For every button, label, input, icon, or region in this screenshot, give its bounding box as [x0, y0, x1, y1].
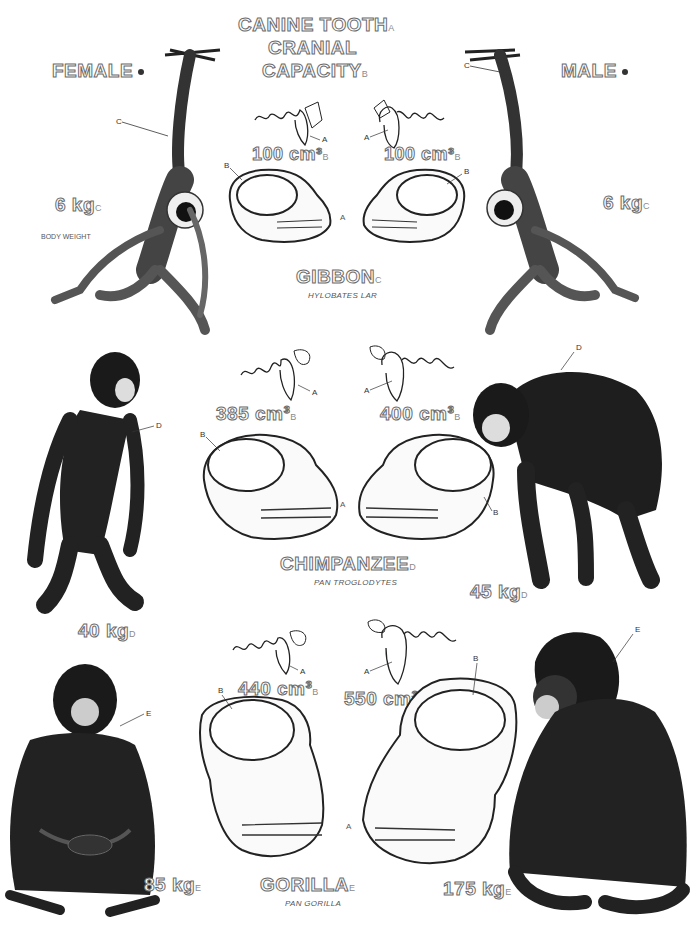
svg-text:E: E [635, 625, 640, 634]
chimp-latin-name: PAN TROGLODYTES [314, 578, 397, 587]
key-c: C [375, 275, 382, 285]
gibbon-male-canine: A [362, 100, 452, 150]
svg-text:A: A [364, 133, 370, 142]
species-name: GORILLA [260, 874, 349, 895]
gibbon-canine-pointer: A [340, 213, 345, 222]
weight-value: 40 kg [78, 620, 129, 641]
weight-value: 85 kg [144, 874, 195, 895]
gorilla-female-skull: B [192, 685, 342, 865]
chimp-female-cranial: 385 cm³B [216, 403, 297, 425]
title-line-3: CAPACITY [262, 60, 362, 81]
svg-text:E: E [146, 709, 151, 718]
key-c: C [95, 203, 102, 213]
svg-text:B: B [218, 686, 223, 695]
gibbon-latin-name: HYLOBATES LAR [308, 291, 377, 300]
key-e: E [505, 887, 512, 897]
gorilla-canine-pointer: A [346, 822, 351, 831]
key-b: B [362, 69, 369, 79]
weight-value: 45 kg [470, 581, 521, 602]
gibbon-species-name: GIBBONC [296, 266, 382, 288]
svg-text:B: B [224, 161, 229, 170]
weight-value: 6 kg [603, 192, 643, 213]
svg-text:C: C [464, 61, 470, 70]
svg-text:B: B [493, 508, 498, 517]
svg-text:A: A [322, 135, 328, 144]
chimp-canine-pointer: A [340, 500, 345, 509]
title-capacity: CAPACITYB [262, 60, 368, 82]
cranial-value: 400 cm³ [380, 403, 454, 424]
key-d: D [521, 590, 528, 600]
svg-text:B: B [473, 654, 478, 663]
species-name: CHIMPANZEE [280, 553, 409, 574]
key-b: B [290, 412, 297, 422]
key-c: C [643, 201, 650, 211]
weight-value: 175 kg [443, 878, 505, 899]
svg-text:C: C [116, 117, 122, 126]
gorilla-male-weight: 175 kgE [443, 878, 512, 900]
gibbon-male-skull: B [352, 160, 472, 250]
svg-text:D: D [576, 343, 582, 352]
gorilla-female-weight: 85 kgE [144, 874, 202, 896]
gibbon-female-canine: A [250, 100, 330, 150]
chimp-female-illustration: D [20, 340, 180, 620]
gibbon-male-illustration: C [460, 40, 650, 340]
svg-text:A: A [312, 388, 318, 397]
title-line-1: CANINE TOOTH [238, 14, 388, 35]
species-name: GIBBON [296, 266, 375, 287]
title-line-2: CRANIAL [268, 37, 357, 58]
gorilla-female-canine: A [228, 628, 318, 678]
title-cranial: CRANIAL [268, 37, 357, 59]
svg-text:B: B [200, 430, 205, 439]
chimp-female-skull: B [196, 425, 346, 545]
gorilla-latin-name: PAN GORILLA [285, 899, 341, 908]
gorilla-species-name: GORILLAE [260, 874, 356, 896]
chimp-species-name: CHIMPANZEED [280, 553, 416, 575]
key-a: A [388, 23, 395, 33]
chimp-male-canine: A [362, 345, 462, 405]
svg-text:A: A [364, 386, 370, 395]
svg-text:D: D [156, 421, 162, 430]
cranial-value: 385 cm³ [216, 403, 290, 424]
gibbon-female-skull: B [222, 160, 342, 250]
chimp-male-cranial: 400 cm³B [380, 403, 461, 425]
key-e: E [349, 883, 356, 893]
chimp-female-weight: 40 kgD [78, 620, 136, 642]
chimp-male-weight: 45 kgD [470, 581, 528, 603]
body-weight-label: BODY WEIGHT [41, 233, 91, 240]
svg-text:A: A [300, 667, 306, 676]
key-d: D [129, 629, 136, 639]
chimp-male-skull: B [348, 425, 508, 545]
chimp-female-canine: A [236, 345, 326, 405]
gibbon-female-weight: 6 kgC [55, 194, 102, 216]
weight-value: 6 kg [55, 194, 95, 215]
key-b: B [454, 412, 461, 422]
svg-text:B: B [464, 167, 469, 176]
gibbon-male-weight: 6 kgC [603, 192, 650, 214]
gorilla-male-skull: B [345, 665, 525, 875]
gorilla-male-illustration: E [495, 622, 695, 922]
gibbon-female-illustration: C [40, 40, 230, 340]
key-d: D [409, 562, 416, 572]
title-canine-tooth: CANINE TOOTHA [238, 14, 395, 36]
key-e: E [195, 883, 202, 893]
